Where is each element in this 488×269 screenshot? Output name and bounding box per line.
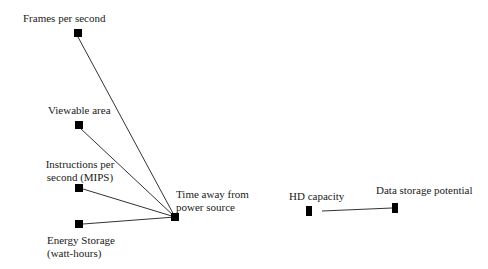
edge-hd-to-storage: [322, 208, 392, 211]
node-label-viewable: Viewable area: [48, 104, 111, 117]
node-viewable[interactable]: [75, 121, 83, 129]
edges-layer: [0, 0, 488, 269]
node-frames[interactable]: [74, 29, 82, 37]
node-label-time-line2: power source: [176, 201, 249, 214]
edge-frames-to-time: [78, 37, 175, 217]
node-label-energy-line1: Energy Storage: [47, 234, 115, 247]
node-hd[interactable]: [306, 206, 312, 216]
node-label-mips: Instructions per second (MIPS): [43, 158, 117, 184]
node-label-time-line1: Time away from: [176, 188, 249, 201]
edge-energy-to-time: [83, 217, 175, 224]
node-label-energy: Energy Storage (watt-hours): [47, 234, 115, 260]
node-label-mips-line2: second (MIPS): [43, 171, 117, 184]
node-label-storage: Data storage potential: [376, 184, 473, 197]
node-energy[interactable]: [75, 220, 83, 228]
node-label-time: Time away from power source: [176, 188, 249, 214]
node-label-mips-line1: Instructions per: [43, 158, 117, 171]
diagram-canvas: Frames per second Viewable area Instruct…: [0, 0, 488, 269]
node-storage[interactable]: [392, 203, 398, 213]
node-label-frames: Frames per second: [23, 12, 105, 25]
node-mips[interactable]: [75, 184, 83, 192]
node-time[interactable]: [171, 213, 179, 221]
edge-mips-to-time: [83, 189, 175, 217]
node-label-energy-line2: (watt-hours): [47, 247, 115, 260]
node-label-hd: HD capacity: [289, 190, 344, 203]
